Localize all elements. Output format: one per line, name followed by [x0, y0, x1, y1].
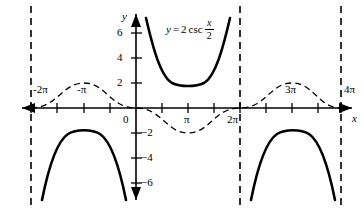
equation-numerator: x: [205, 18, 213, 29]
y-tick-label-6: 6: [117, 27, 123, 38]
x-tick-label-minus-2pi: -2π: [33, 84, 48, 95]
x-tick-label-zero: 0: [123, 114, 129, 125]
equation-denominator: 2: [205, 30, 214, 41]
x-tick-label-2pi: 2π: [227, 114, 238, 125]
csc-function-graph-figure: y x -2π -π 0 π 2π 3π 4π 6 4 2 −2 −4 −6 y…: [0, 0, 364, 211]
equation-lhs: y: [166, 24, 171, 35]
y-axis: [131, 14, 141, 200]
y-tick-label-4: 4: [117, 52, 123, 63]
equation-function: csc: [189, 24, 203, 35]
y-tick-label-minus-4: −4: [141, 152, 153, 163]
y-axis-arrow-up: [131, 14, 141, 27]
y-tick-label-minus-2: −2: [141, 127, 153, 138]
y-tick-label-2: 2: [117, 77, 123, 88]
y-axis-label: y: [122, 11, 127, 22]
csc-branch-left-negative: [42, 130, 126, 200]
equation-fraction: x 2: [205, 18, 214, 41]
x-tick-label-3pi: 3π: [285, 84, 296, 95]
x-tick-label-minus-pi: -π: [77, 84, 86, 95]
equation-coefficient: 2: [181, 24, 187, 35]
csc-branch-right-negative: [251, 130, 335, 200]
equation-label: y = 2 csc x 2: [166, 18, 214, 41]
x-axis-label: x: [352, 113, 357, 124]
x-tick-label-pi: π: [184, 114, 190, 125]
x-tick-label-4pi: 4π: [344, 84, 355, 95]
equation-equals: =: [173, 24, 179, 35]
x-axis: [22, 103, 352, 113]
y-axis-arrow-down: [131, 187, 141, 200]
y-tick-label-minus-6: −6: [141, 177, 153, 188]
